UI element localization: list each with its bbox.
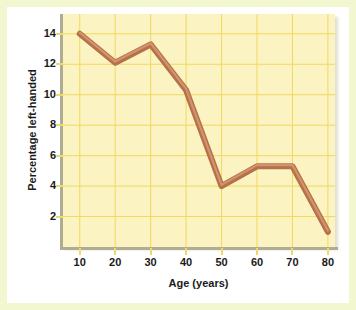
x-axis-tick-mark (256, 248, 258, 255)
x-axis-tick-mark (221, 248, 223, 255)
x-axis-tick-label: 70 (277, 256, 307, 268)
x-axis-tick-label: 50 (207, 256, 237, 268)
y-axis-tick-mark (56, 94, 63, 96)
y-axis-tick-mark (56, 155, 63, 157)
x-axis-tick-mark (114, 248, 116, 255)
x-axis-tick-label: 10 (65, 256, 95, 268)
y-axis-tick-mark (56, 33, 63, 35)
x-axis-tick-mark (185, 248, 187, 255)
x-axis-tick-mark (291, 248, 293, 255)
y-axis-title: Percentage left-handed (26, 35, 38, 225)
y-axis-tick-mark (56, 185, 63, 187)
x-axis-title: Age (years) (62, 277, 335, 289)
x-axis-tick-label: 60 (242, 256, 272, 268)
x-axis-tick-label: 20 (100, 256, 130, 268)
x-axis-tick-label: 40 (171, 256, 201, 268)
x-axis-tick-mark (150, 248, 152, 255)
chart-figure: 2468101214 1020304050607080 Age (years) … (0, 0, 356, 310)
x-axis-tick-label: 80 (313, 256, 343, 268)
y-axis-tick-mark (56, 216, 63, 218)
x-axis-tick-mark (79, 248, 81, 255)
x-axis-tick-mark (327, 248, 329, 255)
plot-area (62, 14, 335, 247)
x-axis-spine (60, 247, 338, 250)
data-line-series (62, 14, 335, 247)
y-axis-tick-mark (56, 63, 63, 65)
y-axis-tick-mark (56, 124, 63, 126)
x-axis-tick-label: 30 (136, 256, 166, 268)
